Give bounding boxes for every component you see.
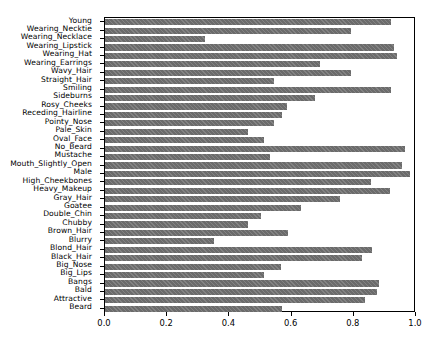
bar-row bbox=[105, 213, 414, 219]
bar bbox=[105, 146, 405, 152]
bar-row bbox=[105, 238, 414, 244]
bar-row bbox=[105, 196, 414, 202]
x-axis-tick-label: 0.6 bbox=[284, 318, 297, 328]
bar-row bbox=[105, 171, 414, 177]
bar bbox=[105, 188, 390, 194]
y-axis-tick-label: Beard bbox=[69, 303, 92, 312]
bar bbox=[105, 112, 282, 118]
bar bbox=[105, 306, 282, 312]
x-axis-tick-label: 0.0 bbox=[97, 318, 110, 328]
bar-row bbox=[105, 44, 414, 50]
x-axis-tick-label: 0.8 bbox=[346, 318, 359, 328]
bar bbox=[105, 53, 397, 59]
bar bbox=[105, 19, 391, 25]
bar bbox=[105, 137, 264, 143]
bar-row bbox=[105, 137, 414, 143]
x-axis-tick-label: 0.2 bbox=[160, 318, 173, 328]
bar-chart: YoungWearing_NecktieWearing_NecklaceWear… bbox=[0, 0, 438, 349]
bar bbox=[105, 297, 365, 303]
bar bbox=[105, 162, 402, 168]
bar bbox=[105, 70, 351, 76]
bar bbox=[105, 280, 379, 286]
bar-row bbox=[105, 146, 414, 152]
bar-row bbox=[105, 112, 414, 118]
bar-row bbox=[105, 162, 414, 168]
bar bbox=[105, 95, 315, 101]
bar bbox=[105, 272, 264, 278]
bar-row bbox=[105, 230, 414, 236]
bar bbox=[105, 213, 261, 219]
plot-area bbox=[104, 17, 415, 312]
bar-row bbox=[105, 280, 414, 286]
bar-row bbox=[105, 36, 414, 42]
bar-row bbox=[105, 120, 414, 126]
bar-row bbox=[105, 247, 414, 253]
bar bbox=[105, 205, 301, 211]
bar-row bbox=[105, 78, 414, 84]
bar-row bbox=[105, 306, 414, 312]
x-axis-tick-mark bbox=[104, 312, 105, 316]
bar bbox=[105, 120, 274, 126]
bar bbox=[105, 28, 351, 34]
bar-row bbox=[105, 70, 414, 76]
x-axis-tick-mark bbox=[415, 312, 416, 316]
x-axis-tick-mark bbox=[166, 312, 167, 316]
bar-row bbox=[105, 179, 414, 185]
bar-row bbox=[105, 255, 414, 261]
bar bbox=[105, 87, 391, 93]
bar bbox=[105, 61, 320, 67]
x-axis-tick-label: 1.0 bbox=[408, 318, 421, 328]
bar bbox=[105, 289, 377, 295]
bar bbox=[105, 171, 410, 177]
bar-row bbox=[105, 103, 414, 109]
bar-row bbox=[105, 19, 414, 25]
bar bbox=[105, 255, 362, 261]
bar-row bbox=[105, 87, 414, 93]
bar-row bbox=[105, 188, 414, 194]
bar bbox=[105, 196, 340, 202]
x-axis-tick-mark bbox=[353, 312, 354, 316]
bar bbox=[105, 264, 281, 270]
bar-row bbox=[105, 61, 414, 67]
bar-row bbox=[105, 272, 414, 278]
bar bbox=[105, 154, 270, 160]
bar bbox=[105, 129, 248, 135]
bar bbox=[105, 247, 372, 253]
bar-row bbox=[105, 221, 414, 227]
bar bbox=[105, 179, 371, 185]
bar-row bbox=[105, 297, 414, 303]
bar bbox=[105, 44, 394, 50]
bars-layer bbox=[105, 18, 414, 311]
x-axis-tick-mark bbox=[291, 312, 292, 316]
bar bbox=[105, 238, 214, 244]
bar-row bbox=[105, 154, 414, 160]
bar-row bbox=[105, 205, 414, 211]
bar-row bbox=[105, 129, 414, 135]
bar-row bbox=[105, 264, 414, 270]
bar bbox=[105, 230, 288, 236]
bar-row bbox=[105, 28, 414, 34]
y-axis-labels: YoungWearing_NecktieWearing_NecklaceWear… bbox=[0, 17, 100, 312]
x-axis: 0.00.20.40.60.81.0 bbox=[104, 312, 415, 342]
x-axis-tick-mark bbox=[228, 312, 229, 316]
bar bbox=[105, 221, 248, 227]
bar bbox=[105, 103, 287, 109]
bar bbox=[105, 36, 205, 42]
bar-row bbox=[105, 95, 414, 101]
bar-row bbox=[105, 53, 414, 59]
bar-row bbox=[105, 289, 414, 295]
bar bbox=[105, 78, 274, 84]
x-axis-tick-label: 0.4 bbox=[222, 318, 235, 328]
